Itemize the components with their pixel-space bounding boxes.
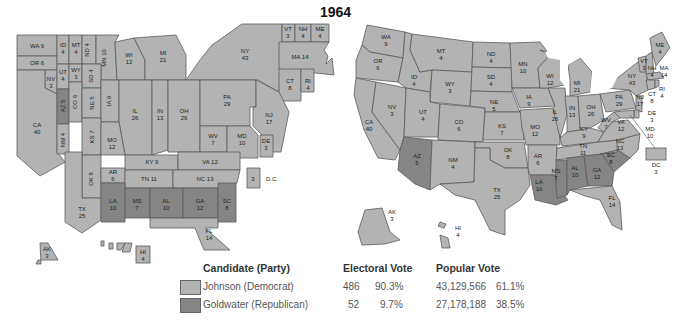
- label-la-votes: 10: [110, 205, 117, 211]
- label-wv: WV: [208, 133, 218, 139]
- swatch-republican: [180, 298, 201, 313]
- label-md-votes: 10: [239, 140, 246, 146]
- geo-label-ct-votes: 8: [650, 98, 654, 104]
- geo-label-ga: GA: [593, 167, 602, 173]
- geo-label-az: AZ: [413, 153, 421, 159]
- geo-label-wi: WI: [546, 73, 554, 79]
- geo-label-de-votes: 3: [650, 117, 654, 123]
- geo-state-dc[interactable]: [646, 148, 666, 160]
- geo-label-ut: UT: [419, 109, 427, 115]
- label-il-votes: 26: [132, 115, 139, 121]
- geo-label-pa-votes: 29: [616, 101, 623, 107]
- label-ga: GA: [196, 198, 205, 204]
- label-ok: OK 8: [88, 172, 94, 186]
- label-oh-votes: 26: [181, 115, 188, 121]
- geo-label-nd: ND: [487, 51, 496, 57]
- geo-label-hi: HI: [455, 225, 461, 231]
- label-ut: UT: [59, 69, 67, 75]
- geo-label-in-votes: 13: [569, 112, 576, 118]
- geo-state-de[interactable]: [634, 110, 639, 118]
- label-ct: CT: [286, 78, 294, 84]
- geo-label-fl: FL: [608, 195, 616, 201]
- geo-label-tx: TX: [493, 187, 501, 193]
- label-va: VA 12: [202, 159, 218, 165]
- label-nj: NJ: [265, 112, 272, 118]
- label-nd: ND 4: [84, 43, 90, 57]
- geo-label-nj: NJ: [636, 94, 643, 100]
- geo-label-sd: SD: [487, 74, 496, 80]
- cartogram-state-wv[interactable]: [200, 126, 227, 152]
- header-candidate: Candidate (Party): [203, 262, 290, 274]
- label-sc: SC: [223, 198, 232, 204]
- geo-label-ca: CA: [365, 119, 373, 125]
- geo-label-ia: IA: [526, 94, 532, 100]
- geo-label-ar: AR: [534, 153, 543, 159]
- geo-label-nh: NH: [648, 65, 657, 71]
- geo-label-dc-votes: 3: [654, 169, 658, 175]
- label-wy: WY: [71, 67, 81, 73]
- geo-label-wv: WV: [601, 117, 611, 123]
- popular-percent: 61.1%: [496, 281, 524, 292]
- geo-state-fl[interactable]: [570, 186, 622, 230]
- label-mi-votes: 21: [160, 57, 167, 63]
- geo-label-hi-votes: 4: [456, 232, 460, 238]
- label-nc: NC 13: [196, 176, 214, 182]
- label-nh: NH: [299, 26, 308, 32]
- geo-label-ny-votes: 43: [629, 80, 636, 86]
- geo-label-la: LA: [535, 179, 542, 185]
- geo-label-md-votes: 10: [647, 133, 654, 139]
- geo-label-la-votes: 10: [536, 186, 543, 192]
- label-ak: AK: [43, 246, 51, 252]
- label-ca: CA: [33, 122, 41, 128]
- cartogram-state-hi-2[interactable]: [109, 243, 113, 249]
- geo-label-ky: KY: [580, 126, 588, 132]
- geo-label-pa: PA: [615, 94, 623, 100]
- label-ne: NE 5: [89, 96, 95, 110]
- geo-label-ak-votes: 3: [390, 216, 394, 222]
- geo-state-ia[interactable]: [512, 88, 555, 108]
- label-hi: HI: [140, 249, 146, 255]
- geo-label-tx-votes: 25: [494, 194, 501, 200]
- geo-state-hi-islands[interactable]: [438, 222, 446, 228]
- label-al: AL: [162, 198, 170, 204]
- geo-state-ct[interactable]: [646, 80, 655, 90]
- cartogram-map: WA 9 OR 6 ID 4 MT 4 ND 4 MN 10 WI 12 MI …: [0, 0, 684, 323]
- label-fl: FL: [205, 228, 213, 234]
- popular-percent: 38.5%: [496, 299, 524, 310]
- geo-label-nc-votes: 13: [617, 145, 624, 151]
- label-wa: WA 9: [30, 43, 45, 49]
- label-me: ME: [316, 26, 325, 32]
- header-popular-vote: Popular Vote: [436, 262, 500, 274]
- label-in-votes: 13: [157, 115, 164, 121]
- label-de: DE: [262, 138, 270, 144]
- popular-votes: 43,129,566: [436, 281, 486, 292]
- geo-label-ne: NE: [490, 99, 498, 105]
- label-mt: MT: [72, 42, 81, 48]
- cartogram-state-hi-1[interactable]: [101, 241, 104, 246]
- label-ri: RI: [305, 78, 311, 84]
- legend-row-goldwater: Goldwater (Republican) 52 9.7% 27,178,18…: [170, 298, 670, 314]
- geo-label-nj-votes: 17: [637, 101, 644, 107]
- label-dc: D.C.: [266, 176, 278, 182]
- label-nj-votes: 17: [266, 119, 273, 125]
- geo-label-mn-votes: 10: [520, 68, 527, 74]
- label-mn: MN 10: [101, 49, 107, 67]
- geo-label-ok: OK: [504, 147, 513, 153]
- label-co: CO 6: [72, 94, 78, 109]
- electoral-votes: 486: [343, 281, 360, 292]
- electoral-votes: 52: [348, 299, 359, 310]
- label-pa: PA: [223, 94, 231, 100]
- geo-label-mn: MN: [518, 61, 527, 67]
- geo-state-hi[interactable]: [440, 235, 450, 248]
- label-tx-votes: 25: [79, 213, 86, 219]
- label-mi: MI: [160, 50, 167, 56]
- cartogram-state-fl[interactable]: [150, 218, 230, 250]
- popular-votes: 27,178,188: [436, 299, 486, 310]
- label-tn: TN 11: [141, 176, 158, 182]
- geo-label-ms: MS: [552, 168, 561, 174]
- geo-label-mi: MI: [574, 80, 581, 86]
- geo-label-wy: WY: [445, 81, 455, 87]
- geo-label-oh-votes: 26: [588, 111, 595, 117]
- label-pa-votes: 29: [224, 101, 231, 107]
- label-az: AZ 5: [60, 99, 66, 112]
